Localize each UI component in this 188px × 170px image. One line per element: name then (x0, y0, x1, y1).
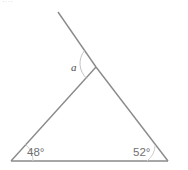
top-edge-artifact: ···· (2, 0, 28, 3)
apex-exterior-angle-arc (80, 51, 87, 79)
geometry-figure: ···· a 48° 52° (0, 0, 188, 170)
triangle-left-side-segment (11, 67, 96, 161)
apex-exterior-angle-label: a (71, 61, 77, 73)
triangle-right-side-segment (96, 67, 168, 161)
bottom-left-angle-label: 48° (27, 146, 44, 158)
triangle-diagram-svg: a 48° 52° (0, 0, 188, 170)
extension-ray-segment (58, 12, 96, 67)
bottom-right-angle-label: 52° (133, 146, 150, 158)
